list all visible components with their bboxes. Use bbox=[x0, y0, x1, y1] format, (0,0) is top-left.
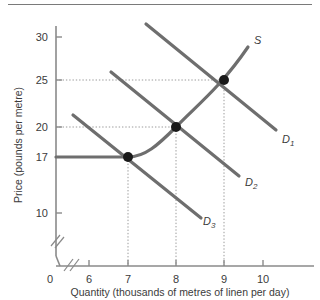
curve-label-d3-subscript: 3 bbox=[211, 221, 216, 230]
supply-demand-chart: 30 25 20 17 10 0 6 7 8 9 10 bbox=[0, 0, 320, 300]
equilibrium-point-8-20 bbox=[171, 122, 181, 132]
equilibrium-point-9-25 bbox=[219, 75, 229, 85]
x-tick-labels: 0 6 7 8 9 10 bbox=[47, 273, 269, 285]
curve-label-d2-letter: D bbox=[245, 176, 253, 188]
x-axis-title: Quantity (thousands of metres of linen p… bbox=[71, 286, 290, 298]
y-tick-label-10: 10 bbox=[36, 207, 48, 219]
figure-container: 30 25 20 17 10 0 6 7 8 9 10 bbox=[0, 0, 320, 300]
y-tick-label-30: 30 bbox=[36, 31, 48, 43]
curve-label-s: S bbox=[254, 34, 262, 46]
supply-curve-path bbox=[56, 47, 248, 157]
x-axis-ticks bbox=[89, 260, 263, 266]
curve-label-d2: D2 bbox=[245, 176, 258, 191]
x-tick-label-10: 10 bbox=[257, 273, 269, 285]
y-tick-label-20: 20 bbox=[36, 121, 48, 133]
curve-label-d1-letter: D bbox=[282, 133, 290, 145]
curve-label-d3-letter: D bbox=[203, 215, 211, 227]
curve-label-d2-subscript: 2 bbox=[252, 182, 258, 191]
top-rule-divider bbox=[8, 4, 312, 5]
x-tick-label-7: 7 bbox=[125, 273, 131, 285]
y-axis-ticks bbox=[56, 37, 62, 213]
x-tick-label-9: 9 bbox=[221, 273, 227, 285]
equilibrium-point-7-17 bbox=[123, 152, 133, 162]
x-tick-label-0: 0 bbox=[47, 273, 53, 285]
axes bbox=[56, 26, 314, 266]
y-tick-label-25: 25 bbox=[36, 74, 48, 86]
x-tick-label-8: 8 bbox=[173, 273, 179, 285]
supply-curve bbox=[56, 47, 248, 157]
y-tick-label-17: 17 bbox=[36, 151, 48, 163]
curve-label-d1-subscript: 1 bbox=[290, 139, 294, 148]
y-axis-title: Price (pounds per metre) bbox=[12, 87, 24, 203]
curve-label-d1: D1 bbox=[282, 133, 294, 148]
y-tick-labels: 30 25 20 17 10 bbox=[36, 31, 48, 219]
guide-lines bbox=[56, 80, 224, 266]
origin-connector bbox=[56, 256, 60, 266]
curve-label-d3: D3 bbox=[203, 215, 216, 230]
x-tick-label-6: 6 bbox=[86, 273, 92, 285]
curve-labels: S D1 D2 D3 bbox=[203, 34, 294, 230]
